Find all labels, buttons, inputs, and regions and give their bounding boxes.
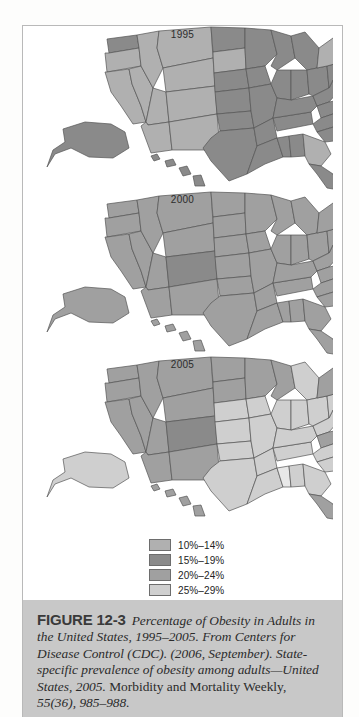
us-choropleth-1995 bbox=[33, 26, 333, 191]
legend-item-0: 10%–14% bbox=[23, 538, 342, 552]
legend-swatch-icon-1 bbox=[149, 554, 171, 566]
legend-label-1: 15%–19% bbox=[178, 555, 224, 566]
map-title-2000: 2000 bbox=[23, 194, 342, 205]
map-panel-1995: 1995 bbox=[23, 26, 342, 212]
legend-label-0: 10%–14% bbox=[178, 540, 224, 551]
map-panel-2000: 2000 bbox=[23, 191, 342, 377]
map-title-2005: 2005 bbox=[23, 359, 342, 370]
legend-item-2: 20%–24% bbox=[23, 568, 342, 582]
legend-swatch-icon-2 bbox=[149, 569, 171, 581]
map-panel-2005: 2005 bbox=[23, 356, 342, 542]
figure-caption-block: FIGURE 12-3Percentage of Obesity in Adul… bbox=[23, 599, 342, 717]
figure-frame: 1995 bbox=[22, 25, 343, 717]
legend-swatch-icon-0 bbox=[149, 539, 171, 551]
legend-item-3: 25%–29% bbox=[23, 583, 342, 597]
figure-number: FIGURE 12-3 bbox=[37, 611, 126, 628]
us-choropleth-2000 bbox=[33, 191, 333, 356]
map-title-1995: 1995 bbox=[23, 29, 342, 40]
us-choropleth-2005 bbox=[33, 356, 333, 521]
legend-label-2: 20%–24% bbox=[178, 570, 224, 581]
legend-item-1: 15%–19% bbox=[23, 553, 342, 567]
figure-caption-italic-2: 55(36), 985–988. bbox=[37, 695, 130, 710]
figure-caption-roman-1: Morbidity and Mortality Weekly, bbox=[106, 679, 286, 694]
legend-swatch-icon-3 bbox=[149, 584, 171, 596]
legend-label-3: 25%–29% bbox=[178, 585, 224, 596]
maps-area: 1995 bbox=[23, 26, 342, 598]
figure-caption-text: FIGURE 12-3Percentage of Obesity in Adul… bbox=[37, 612, 326, 711]
